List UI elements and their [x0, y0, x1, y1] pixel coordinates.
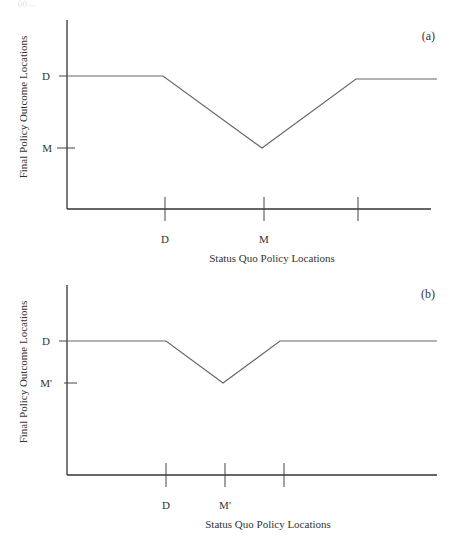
panel-a-y-tick-d-label: D — [42, 70, 50, 82]
panel-b: (b) D M' D M' Status Quo Policy Location… — [17, 285, 437, 530]
panel-a: (a) D M D M Status Quo Policy Locations … — [17, 20, 437, 264]
figure: (a) ... (a) D M D M Status Quo Policy Lo… — [0, 0, 451, 547]
panel-a-x-tick-d-label: D — [161, 233, 169, 245]
panel-b-y-tick-d-label: D — [42, 335, 50, 347]
panel-b-x-axis-label: Status Quo Policy Locations — [205, 518, 331, 530]
panel-b-y-axis-label: Final Policy Outcome Locations — [17, 301, 29, 444]
panel-b-outcome-line — [67, 341, 437, 383]
panel-b-y-tick-m-label: M' — [40, 377, 52, 389]
panel-a-x-axis-label: Status Quo Policy Locations — [209, 252, 335, 264]
panel-a-y-axis-label: Final Policy Outcome Locations — [17, 36, 29, 179]
panel-a-x-tick-m-label: M — [259, 233, 269, 245]
panel-b-x-tick-d-label: D — [162, 499, 170, 511]
panel-a-outcome-line — [67, 76, 437, 148]
panel-a-label: (a) — [422, 29, 435, 43]
panel-b-label: (b) — [421, 287, 435, 301]
panel-a-y-tick-m-label: M — [42, 142, 52, 154]
faint-header: (a) ... — [18, 0, 35, 8]
panel-b-x-tick-m-label: M' — [219, 499, 231, 511]
